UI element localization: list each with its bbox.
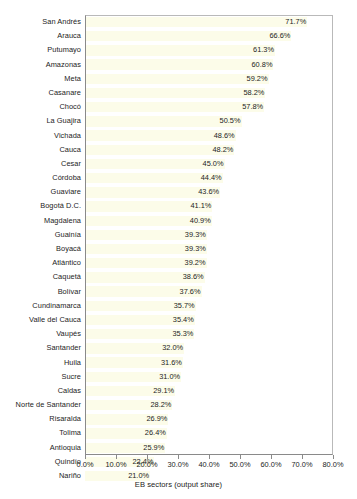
x-axis-tick-label: 20.0%: [136, 460, 157, 469]
bar-track: 40.9%: [85, 214, 333, 228]
x-axis-tick: [147, 455, 148, 459]
x-axis-tick: [116, 455, 117, 459]
bar-value-label: 38.6%: [183, 270, 205, 284]
bar-track: 66.6%: [85, 29, 333, 43]
bar-row: San Andrés71.7%: [0, 15, 357, 29]
bar-value-label: 44.4%: [201, 171, 223, 185]
category-label: Amazonas: [0, 58, 81, 72]
bar-value-label: 26.4%: [145, 426, 167, 440]
category-label: Norte de Santander: [0, 398, 81, 412]
bar-track: 58.2%: [85, 86, 333, 100]
bar-row: Tolima26.4%: [0, 426, 357, 440]
bar-value-label: 35.3%: [172, 327, 194, 341]
bar-value-label: 25.9%: [143, 441, 165, 455]
bar-track: 43.6%: [85, 185, 333, 199]
category-label: Guaviare: [0, 185, 81, 199]
bar-value-label: 50.5%: [220, 114, 242, 128]
bar-track: 31.0%: [85, 370, 333, 384]
bar-row: Guaviare43.6%: [0, 185, 357, 199]
bar: [85, 102, 264, 112]
bar-row: Guainía39.3%: [0, 228, 357, 242]
bar-track: 26.4%: [85, 426, 333, 440]
category-label: Casanare: [0, 86, 81, 100]
bar-track: 32.0%: [85, 341, 333, 355]
bar-track: 48.6%: [85, 129, 333, 143]
category-label: Guainía: [0, 228, 81, 242]
bar-rows: San Andrés71.7%Arauca66.6%Putumayo61.3%A…: [0, 15, 357, 483]
x-axis-tick: [85, 455, 86, 459]
category-label: Magdalena: [0, 214, 81, 228]
bar-chart: San Andrés71.7%Arauca66.6%Putumayo61.3%A…: [0, 0, 357, 499]
bar: [85, 88, 265, 98]
bar-track: 44.4%: [85, 171, 333, 185]
bar-row: Caldas29.1%: [0, 384, 357, 398]
category-label: Huila: [0, 356, 81, 370]
bar-row: Valle del Cauca35.4%: [0, 313, 357, 327]
plot-area: San Andrés71.7%Arauca66.6%Putumayo61.3%A…: [0, 0, 357, 460]
x-axis-tick-label: 30.0%: [167, 460, 188, 469]
category-label: Quindío: [0, 455, 81, 469]
x-axis-tick: [178, 455, 179, 459]
bar-track: 38.6%: [85, 270, 333, 284]
bar-value-label: 48.2%: [212, 143, 234, 157]
x-axis-tick: [209, 455, 210, 459]
bar-row: Bogotá D.C.41.1%: [0, 199, 357, 213]
bar-track: 60.8%: [85, 58, 333, 72]
bar-row: Vichada48.6%: [0, 129, 357, 143]
bar: [85, 59, 273, 69]
bar-row: Norte de Santander28.2%: [0, 398, 357, 412]
x-axis-tick-label: 40.0%: [198, 460, 219, 469]
bar-value-label: 35.4%: [173, 313, 195, 327]
bar-track: 25.9%: [85, 441, 333, 455]
bar-value-label: 57.8%: [242, 100, 264, 114]
bar-value-label: 58.2%: [243, 86, 265, 100]
bar-value-label: 39.3%: [185, 242, 207, 256]
category-label: Vichada: [0, 129, 81, 143]
category-label: San Andrés: [0, 15, 81, 29]
bar-row: Caquetá38.6%: [0, 270, 357, 284]
bar-track: 35.7%: [85, 299, 333, 313]
bar-value-label: 39.3%: [185, 228, 207, 242]
category-label: Chocó: [0, 100, 81, 114]
bar-value-label: 26.9%: [146, 412, 168, 426]
bar-track: 41.1%: [85, 199, 333, 213]
x-axis: 0.0%10.0%20.0%30.0%40.0%50.0%60.0%70.0%8…: [85, 455, 333, 479]
bar-row: La Guajira50.5%: [0, 114, 357, 128]
bar-value-label: 71.7%: [285, 15, 307, 29]
bar-row: Cauca48.2%: [0, 143, 357, 157]
bar-track: 71.7%: [85, 15, 333, 29]
bar-value-label: 28.2%: [150, 398, 172, 412]
bar-track: 37.6%: [85, 285, 333, 299]
bar-track: 57.8%: [85, 100, 333, 114]
x-axis-tick-label: 50.0%: [229, 460, 250, 469]
bar: [85, 45, 275, 55]
bar-row: Risaralda26.9%: [0, 412, 357, 426]
x-axis-tick-label: 0.0%: [76, 460, 93, 469]
bar-track: 29.1%: [85, 384, 333, 398]
category-label: Cauca: [0, 143, 81, 157]
bar-value-label: 66.6%: [269, 29, 291, 43]
bar-row: Córdoba44.4%: [0, 171, 357, 185]
bar-value-label: 61.3%: [253, 43, 275, 57]
category-label: Meta: [0, 72, 81, 86]
bar-track: 26.9%: [85, 412, 333, 426]
bar-row: Magdalena40.9%: [0, 214, 357, 228]
bar-track: 50.5%: [85, 114, 333, 128]
category-label: Boyacá: [0, 242, 81, 256]
category-label: Bolívar: [0, 285, 81, 299]
bar: [85, 116, 242, 126]
bar-row: Amazonas60.8%: [0, 58, 357, 72]
category-label: Sucre: [0, 370, 81, 384]
bar-value-label: 45.0%: [203, 157, 225, 171]
bar-track: 45.0%: [85, 157, 333, 171]
bar-value-label: 48.6%: [214, 129, 236, 143]
bar-value-label: 31.6%: [161, 356, 183, 370]
bar-value-label: 31.0%: [159, 370, 181, 384]
x-axis-tick-label: 10.0%: [105, 460, 126, 469]
x-axis-tick-label: 80.0%: [322, 460, 343, 469]
category-label: Valle del Cauca: [0, 313, 81, 327]
bar: [85, 31, 291, 41]
bar-value-label: 37.6%: [180, 285, 202, 299]
x-axis-tick-label: 60.0%: [260, 460, 281, 469]
bar-value-label: 29.1%: [153, 384, 175, 398]
